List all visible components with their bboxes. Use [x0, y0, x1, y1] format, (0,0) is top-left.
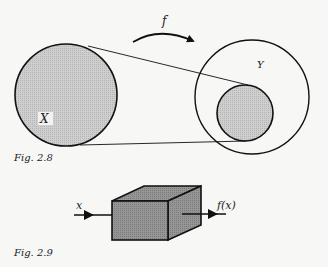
- map-label: f: [161, 14, 169, 28]
- figure-caption: Fig. 2.8: [13, 152, 53, 163]
- codomain-label: Y: [257, 59, 265, 70]
- input-arrowhead-icon: [84, 210, 94, 220]
- figure-caption: Fig. 2.9: [13, 247, 53, 258]
- image-set: [217, 85, 273, 141]
- map-arrow-icon: [133, 34, 193, 42]
- function-box: [112, 201, 168, 240]
- output-label: f(x): [216, 199, 236, 212]
- domain-label: X: [39, 112, 49, 126]
- input-label: x: [76, 199, 83, 212]
- figure-canvas: f X Y Fig. 2.8 x f(x) Fig. 2.9: [0, 0, 328, 267]
- figure-2-8: f X Y Fig. 2.8: [13, 14, 309, 163]
- domain-set-x: [15, 44, 117, 146]
- figure-2-9: x f(x) Fig. 2.9: [13, 186, 236, 258]
- figure-page: f X Y Fig. 2.8 x f(x) Fig. 2.9: [0, 0, 328, 267]
